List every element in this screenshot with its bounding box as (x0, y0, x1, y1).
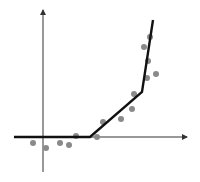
data-point (118, 116, 124, 122)
data-point (153, 71, 159, 77)
piecewise-fit-line (14, 20, 153, 137)
plot-area (0, 0, 200, 182)
data-point (94, 134, 100, 140)
data-point (141, 44, 147, 50)
data-point (66, 142, 72, 148)
data-point (57, 140, 63, 146)
data-point (43, 145, 49, 151)
data-point (30, 140, 36, 146)
data-point (129, 106, 135, 112)
chart (0, 0, 200, 182)
